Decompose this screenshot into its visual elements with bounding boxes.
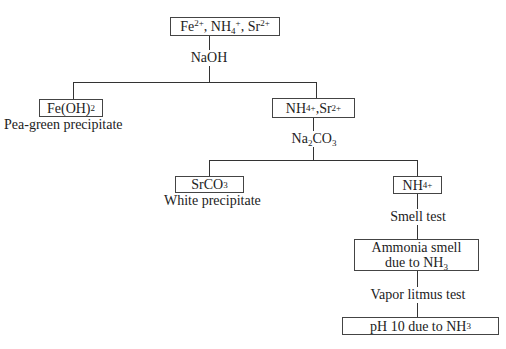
feoh2-box: Fe(OH)2 [39,99,103,117]
ammonia-smell-line1: Ammonia smell [372,240,462,255]
srco3-box: SrCO3 [175,176,244,193]
reagent-vapor-litmus-label: Vapor litmus test [370,287,466,303]
connector-na2co3-split [209,160,418,161]
ph10-box: pH 10 due to NH3 [342,317,499,335]
connector-to-srco3 [209,160,210,176]
connector-to-feoh2 [73,82,74,99]
nh4-box: NH4+ [393,176,442,194]
ammonia-smell-line2: due to NH3 [385,255,448,270]
root-ion-fe: Fe2+ [180,19,204,34]
root-ion-sr: Sr2+ [248,19,270,34]
srco3-caption: White precipitate [164,193,261,209]
reagent-naoh-label: NaOH [189,50,229,66]
connector-naoh-split [73,82,317,83]
feoh2-caption: Pea-green precipitate [4,117,123,133]
ammonia-smell-box: Ammonia smell due to NH3 [354,239,479,271]
root-ions-box: Fe2+, NH4+, Sr2+ [170,17,280,36]
reagent-na2co3-label: Na2CO3 [290,131,338,147]
root-ion-nh4: NH4+ [211,19,241,34]
connector-to-nh4-sr [316,82,317,98]
nh4-sr-box: NH4+, Sr2+ [272,98,355,118]
reagent-smell-test-label: Smell test [386,209,450,225]
connector-to-nh4 [417,160,418,176]
